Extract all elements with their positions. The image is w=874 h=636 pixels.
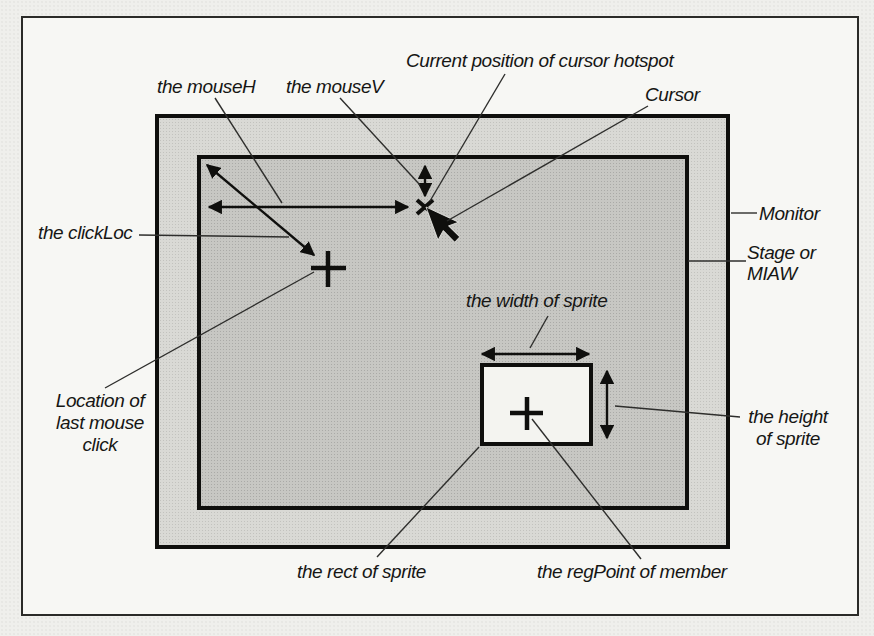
label-mouseV: the mouseV: [286, 76, 383, 97]
book-page: the mouseH the mouseV Current position o…: [0, 0, 874, 636]
label-sprite-width: the width of sprite: [466, 290, 607, 311]
label-stage-or-miaw: Stage or MIAW: [747, 242, 816, 284]
label-cursor: Cursor: [645, 84, 700, 105]
label-mouseH: the mouseH: [157, 76, 255, 97]
sprite-rect: [480, 363, 593, 446]
label-regPoint: the regPoint of member: [537, 561, 727, 582]
label-sprite-rect: the rect of sprite: [297, 561, 426, 582]
label-clickLoc: the clickLoc: [38, 222, 132, 243]
label-sprite-height: the height of sprite: [738, 406, 838, 450]
stage-rect: [197, 155, 689, 510]
label-cursor-hotspot: Current position of cursor hotspot: [406, 50, 673, 71]
label-last-mouse-click: Location of last mouse click: [38, 390, 162, 456]
label-monitor: Monitor: [759, 203, 820, 224]
